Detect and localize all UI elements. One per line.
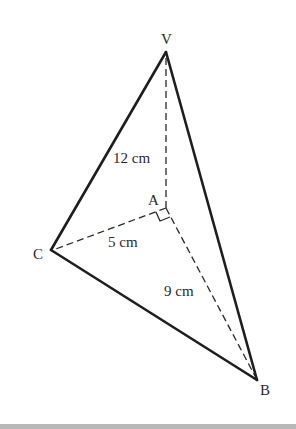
vertex-label-c: C <box>33 246 43 262</box>
right-angle-marker <box>156 212 170 221</box>
vertex-label-a: A <box>148 192 159 208</box>
measure-va: 12 cm <box>113 150 150 166</box>
vertex-label-b: B <box>260 382 270 398</box>
measure-ac: 5 cm <box>108 234 138 250</box>
bottom-border <box>0 424 296 429</box>
pyramid-diagram: V A C B 12 cm 5 cm 9 cm <box>0 0 296 429</box>
vertex-label-v: V <box>161 31 172 47</box>
measure-ab: 9 cm <box>164 283 194 299</box>
